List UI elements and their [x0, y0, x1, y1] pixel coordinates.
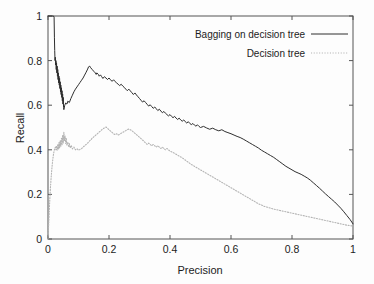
x-tick-label: 0.2 — [102, 243, 117, 255]
y-axis-title: Recall — [14, 113, 26, 144]
y-tick-label: 0.8 — [27, 55, 42, 67]
x-axis-title: Precision — [177, 264, 222, 276]
y-tick-label: 0 — [36, 233, 42, 245]
x-tick-label: 0.8 — [285, 243, 300, 255]
legend: Bagging on decision treeDecision tree — [195, 29, 348, 59]
x-tick-label: 0.4 — [163, 243, 178, 255]
legend-label-1: Decision tree — [247, 48, 306, 59]
series-layer — [48, 16, 353, 239]
x-tick-label: 1 — [350, 243, 356, 255]
y-tick-label: 1 — [36, 10, 42, 22]
y-tick-label: 0.4 — [27, 144, 42, 156]
series-line-1 — [48, 127, 353, 239]
legend-label-0: Bagging on decision tree — [195, 29, 306, 40]
x-tick-label: 0 — [45, 243, 51, 255]
y-tick-label: 0.2 — [27, 188, 42, 200]
figure-container: 00.20.40.60.8100.20.40.60.81 Bagging on … — [0, 0, 374, 284]
y-tick-label: 0.6 — [27, 99, 42, 111]
x-tick-label: 0.6 — [224, 243, 239, 255]
precision-recall-chart: 00.20.40.60.8100.20.40.60.81 Bagging on … — [0, 0, 374, 284]
tick-label-layer: 00.20.40.60.8100.20.40.60.81 — [27, 10, 356, 255]
series-line-0 — [48, 16, 353, 224]
